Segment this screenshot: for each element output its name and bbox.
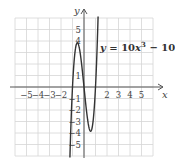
equation-label: y = 10x3 − 10x (99, 40, 175, 53)
y-axis-label: y (73, 5, 80, 16)
function-graph: x y −5−4−3−22345 541−1−2−3−4−5 y = 10x3 … (0, 0, 175, 163)
y-tick-label: −2 (68, 105, 81, 115)
axes (10, 9, 163, 158)
y-tick-label: −1 (68, 94, 81, 104)
y-tick-label: 1 (76, 71, 81, 81)
x-tick-label: 5 (139, 90, 144, 100)
x-axis-label: x (162, 89, 168, 100)
x-tick-label: 2 (104, 90, 109, 100)
x-tick-label: 3 (116, 90, 121, 100)
x-tick-label: 4 (127, 90, 132, 100)
y-tick-label: 5 (76, 25, 81, 35)
x-tick-label: −2 (55, 90, 68, 100)
